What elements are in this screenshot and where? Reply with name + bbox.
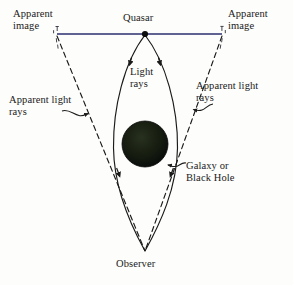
label-apparent-image-left: Apparent image [13, 8, 53, 31]
label-quasar: Quasar [123, 12, 153, 24]
label-apparent-image-right: Apparent image [228, 8, 268, 31]
label-light-rays: Light rays [130, 66, 153, 89]
label-apparent-light-rays-right: Apparent light rays [196, 80, 258, 103]
label-apparent-light-rays-left: Apparent light rays [9, 94, 71, 117]
galaxy-black-hole-body [122, 121, 168, 167]
gravitational-lensing-diagram: Apparent image Apparent image Quasar Lig… [0, 0, 293, 285]
label-observer: Observer [116, 258, 155, 270]
diagram-canvas [0, 0, 293, 285]
label-galaxy-or-black-hole: Galaxy or Black Hole [186, 160, 235, 183]
quasar-dot [142, 31, 148, 37]
